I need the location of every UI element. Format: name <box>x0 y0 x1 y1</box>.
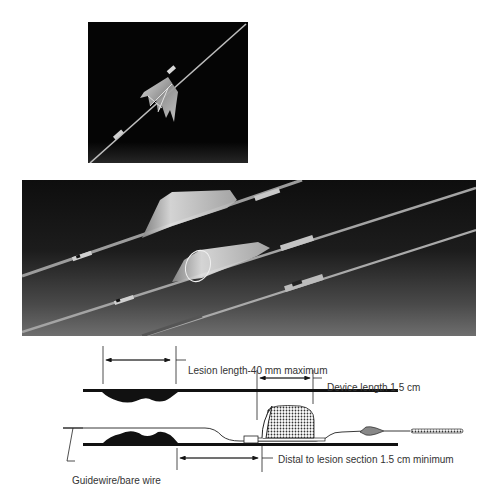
distal-section-label: Distal to lesion section 1.5 cm minimum <box>278 454 454 466</box>
guidewire-label: Guidewire/bare wire <box>72 475 161 487</box>
catheter-devices-image <box>22 180 476 336</box>
lesion-length-label: Lesion length-40 mm maximum <box>188 365 328 377</box>
device-length-label: Device length 1.5 cm <box>327 382 420 394</box>
photo-deployed-filter <box>88 22 248 163</box>
deployment-diagram: Lesion length-40 mm maximum Device lengt… <box>0 340 499 498</box>
filter-device-image <box>88 22 248 163</box>
photo-catheter-devices <box>22 180 476 336</box>
